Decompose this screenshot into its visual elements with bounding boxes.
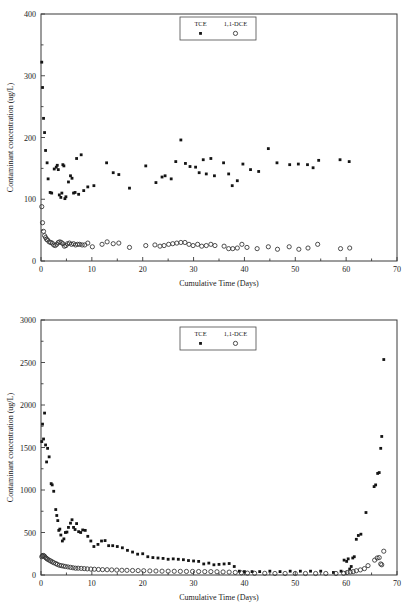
data-point-tce <box>136 553 139 556</box>
data-point-tce <box>41 423 44 426</box>
data-point-dce <box>221 570 225 574</box>
data-point-dce <box>348 246 352 250</box>
data-point-tce <box>60 192 63 195</box>
data-point-tce <box>141 552 144 555</box>
x-tick-label: 60 <box>342 265 350 274</box>
data-point-tce <box>348 160 351 163</box>
data-point-tce <box>288 163 291 166</box>
data-point-tce <box>100 540 103 543</box>
data-point-dce <box>266 245 270 249</box>
data-point-tce <box>170 177 173 180</box>
data-point-dce <box>130 568 134 572</box>
data-point-tce <box>268 570 271 573</box>
data-point-tce <box>62 165 65 168</box>
data-point-tce <box>116 545 119 548</box>
data-point-tce <box>182 558 185 561</box>
data-point-dce <box>96 567 100 571</box>
data-point-dce <box>154 569 158 573</box>
data-point-tce <box>233 565 236 568</box>
data-point-dce <box>203 570 207 574</box>
data-point-dce <box>110 568 114 572</box>
data-point-tce <box>187 559 190 562</box>
y-tick-label: 1000 <box>20 486 36 495</box>
x-tick-label: 30 <box>190 579 198 588</box>
data-point-tce <box>43 131 46 134</box>
data-point-dce <box>127 245 131 249</box>
data-point-tce <box>86 186 89 189</box>
data-point-tce <box>46 447 49 450</box>
data-point-dce <box>125 568 129 572</box>
data-point-tce <box>56 164 59 167</box>
data-point-tce <box>167 558 170 561</box>
data-point-tce <box>202 158 205 161</box>
data-point-dce <box>275 247 279 251</box>
legend-marker-tce <box>199 342 202 345</box>
data-point-tce <box>62 537 65 540</box>
data-point-tce <box>74 191 77 194</box>
data-point-dce <box>167 242 171 246</box>
x-tick-label: 0 <box>39 579 43 588</box>
y-tick-label: 1500 <box>20 444 36 453</box>
data-point-dce <box>142 569 146 573</box>
data-point-tce <box>117 173 120 176</box>
data-point-dce <box>105 240 109 244</box>
data-point-dce <box>100 568 104 572</box>
x-tick-label: 20 <box>139 579 147 588</box>
y-tick-label: 0 <box>32 571 36 580</box>
x-tick-label: 70 <box>393 265 401 274</box>
data-point-tce <box>69 522 72 525</box>
data-point-tce <box>44 149 47 152</box>
data-point-tce <box>222 161 225 164</box>
data-point-tce <box>297 163 300 166</box>
data-point-dce <box>245 245 249 249</box>
data-point-tce <box>184 162 187 165</box>
data-point-tce <box>179 139 182 142</box>
data-point-tce <box>42 438 45 441</box>
x-tick-label: 50 <box>291 579 299 588</box>
x-tick-label: 70 <box>393 579 401 588</box>
data-point-tce <box>213 563 216 566</box>
data-point-dce <box>158 244 162 248</box>
data-point-dce <box>297 247 301 251</box>
data-point-dce <box>380 563 384 567</box>
data-point-tce <box>202 563 205 566</box>
data-point-dce <box>200 244 204 248</box>
data-point-tce <box>151 556 154 559</box>
data-point-tce <box>355 538 358 541</box>
x-tick-label: 20 <box>139 265 147 274</box>
data-point-tce <box>51 484 54 487</box>
data-point-dce <box>213 243 217 247</box>
data-point-tce <box>75 522 78 525</box>
data-point-dce <box>316 242 320 246</box>
data-point-dce <box>215 570 219 574</box>
data-point-tce <box>345 560 348 563</box>
y-tick-label: 3000 <box>20 316 36 325</box>
data-point-tce <box>343 559 346 562</box>
series-tce <box>40 358 385 574</box>
data-point-tce <box>71 518 74 521</box>
data-point-tce <box>317 159 320 162</box>
data-point-dce <box>175 241 179 245</box>
data-point-tce <box>45 461 48 464</box>
data-point-dce <box>204 243 208 247</box>
data-point-dce <box>338 247 342 251</box>
data-point-tce <box>164 174 167 177</box>
legend-label-tce: TCE <box>194 20 206 27</box>
data-point-tce <box>92 184 95 187</box>
data-point-dce <box>115 568 119 572</box>
data-point-tce <box>194 166 197 169</box>
data-point-dce <box>120 568 124 572</box>
data-point-tce <box>105 161 108 164</box>
x-tick-label: 50 <box>291 265 299 274</box>
data-point-tce <box>249 168 252 171</box>
data-point-dce <box>362 567 366 571</box>
data-point-dce <box>209 242 213 246</box>
data-point-dce <box>178 569 182 573</box>
data-point-tce <box>54 508 57 511</box>
data-point-dce <box>366 564 370 568</box>
data-point-dce <box>196 242 200 246</box>
x-tick-label: 40 <box>240 579 248 588</box>
data-point-dce <box>306 246 310 250</box>
data-point-tce <box>79 531 82 534</box>
x-tick-label: 40 <box>240 265 248 274</box>
